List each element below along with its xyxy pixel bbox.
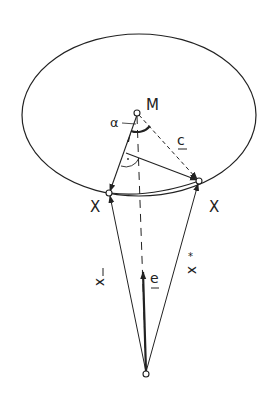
label-alpha: α — [110, 115, 119, 130]
right-angle-dot — [127, 158, 129, 160]
svg-text:x: x — [91, 278, 107, 286]
right-angle-arc — [121, 158, 139, 167]
label-xstar-star: * — [188, 251, 193, 262]
label-x-left: X — [90, 198, 100, 216]
vector-xbar-line — [110, 196, 146, 372]
svg-text:x: x — [183, 266, 199, 274]
label-e: e — [150, 270, 159, 286]
point-m — [134, 110, 140, 116]
geometry-diagram: M α c X X x e x * — [0, 0, 272, 395]
point-origin — [143, 371, 149, 377]
perpendicular-line — [126, 153, 197, 180]
point-x-left — [106, 190, 112, 196]
label-m: M — [146, 96, 159, 114]
angle-alpha-arc — [131, 126, 150, 132]
vector-e-line — [143, 272, 146, 372]
label-xbar: x — [91, 278, 107, 286]
label-x-right: X — [209, 198, 219, 216]
chord-arc — [110, 181, 199, 194]
point-x-right — [196, 178, 202, 184]
label-xstar: x — [183, 266, 199, 274]
label-c: c — [177, 132, 185, 148]
